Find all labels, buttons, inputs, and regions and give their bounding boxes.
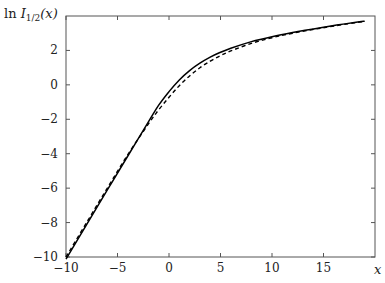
- y-tick-label: −6: [40, 181, 58, 195]
- x-tick-label: 0: [165, 261, 173, 275]
- chart: −10−5051015−10−8−6−4−202 ln I1/2(x) x: [0, 0, 385, 283]
- series-exact: [66, 21, 365, 259]
- x-tick-label: 5: [217, 261, 225, 275]
- y-tick-label: 2: [50, 43, 58, 57]
- y-axis-label: ln I1/2(x): [4, 6, 58, 23]
- series-approximation: [66, 21, 365, 257]
- x-axis-label: x: [374, 262, 382, 277]
- y-tick-label: −10: [33, 250, 58, 264]
- x-tick-label: 10: [264, 261, 279, 275]
- x-tick-label: 15: [316, 261, 331, 275]
- y-tick-label: 0: [50, 78, 58, 92]
- data-series: [66, 21, 365, 259]
- y-tick-label: −8: [40, 216, 58, 230]
- x-tick-label: −5: [109, 261, 127, 275]
- y-tick-label: −4: [40, 147, 58, 161]
- y-tick-label: −2: [40, 112, 58, 126]
